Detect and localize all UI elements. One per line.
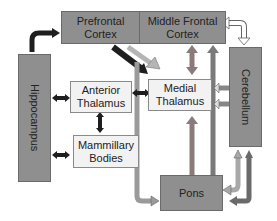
node-medial-thalamus: Medial Thalamus <box>148 79 212 111</box>
arrow-mammillary-to-pons <box>137 148 151 201</box>
arrow-hippocampus-mammillary <box>52 151 70 159</box>
node-mammillary-bodies: Mammillary Bodies <box>73 135 139 168</box>
node-pons: Pons <box>160 175 223 211</box>
node-cerebellum: Cerebellum <box>229 47 262 147</box>
node-anterior-thalamus: Anterior Thalamus <box>70 81 132 113</box>
arrow-hippocampus-to-prefrontal <box>32 33 52 52</box>
node-prefrontal-cortex: Prefrontal Cortex <box>61 11 140 44</box>
node-hippocampus: Hippocampus <box>18 54 51 182</box>
node-middle-frontal-cortex: Middle Frontal Cortex <box>139 11 226 44</box>
arrow-anterior-mammillary <box>96 112 104 133</box>
arrow-hippocampus-anterior <box>52 94 70 102</box>
